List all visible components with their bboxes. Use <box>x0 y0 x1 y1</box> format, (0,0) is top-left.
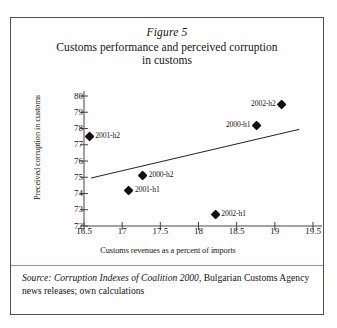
figure-title: Customs performance and perceived corrup… <box>11 41 323 68</box>
y-tick-label: 78 <box>61 124 83 133</box>
y-tick-label: 79 <box>61 108 83 117</box>
x-tick-label: 16.5 <box>67 227 101 236</box>
x-tick-label: 18 <box>182 227 216 236</box>
source-note: Source: Corruption Indexes of Coalition … <box>22 272 312 298</box>
x-tick-label: 17.5 <box>143 227 177 236</box>
data-point-label: 2000-h1 <box>226 120 251 130</box>
axis-lines <box>84 91 322 226</box>
y-tick-label: 76 <box>61 157 83 166</box>
source-prefix: Source: <box>22 272 54 283</box>
x-axis-label: Customs revenues as a percent of imports <box>21 246 315 255</box>
figure-title-line-2: in customs <box>11 54 323 68</box>
data-point-label: 2000-h2 <box>149 170 174 180</box>
source-publication: Corruption Indexes of Coalition 2000 <box>54 272 199 283</box>
figure-title-line-1: Customs performance and perceived corrup… <box>11 41 323 55</box>
x-tick-label: 17 <box>105 227 139 236</box>
figure-frame: Figure 5 Customs performance and perceiv… <box>10 17 324 315</box>
divider-rule <box>11 265 323 266</box>
data-point-label: 2001-h2 <box>95 131 120 141</box>
y-tick-label: 74 <box>61 189 83 198</box>
x-tick-label: 19.5 <box>296 227 330 236</box>
scatter-plot: Preceived corruption in customs Customs … <box>21 91 315 261</box>
figure-number: Figure 5 <box>11 26 323 40</box>
data-point-label: 2002-h2 <box>251 99 276 109</box>
x-tick-label: 18.5 <box>220 227 254 236</box>
tick-marks <box>80 96 313 230</box>
figure-caption: Figure 5 Customs performance and perceiv… <box>11 26 323 68</box>
y-tick-label: 77 <box>61 140 83 149</box>
x-tick-label: 19 <box>258 227 292 236</box>
y-tick-label: 75 <box>61 173 83 182</box>
trend-line <box>91 129 299 178</box>
y-tick-label: 73 <box>61 205 83 214</box>
data-point-label: 2002-h1 <box>221 209 246 219</box>
y-tick-label: 80 <box>61 92 83 101</box>
data-point-label: 2001-h1 <box>135 185 160 195</box>
